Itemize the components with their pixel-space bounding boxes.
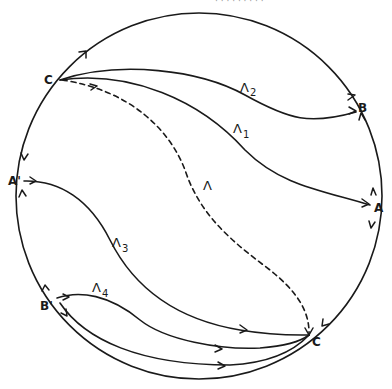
- svg-text:3: 3: [122, 243, 128, 254]
- curve-lambda2: [60, 69, 356, 119]
- arrow-circle-below-Aprime: [19, 190, 26, 197]
- point-label-A-prime: A': [8, 174, 21, 188]
- label-lambda1: Λ 1: [233, 121, 249, 140]
- label-lambda3: Λ 3: [112, 235, 128, 254]
- svg-text:1: 1: [243, 129, 249, 140]
- svg-text:4: 4: [102, 288, 108, 299]
- point-label-B: B: [358, 101, 367, 115]
- point-label-A: A: [374, 201, 384, 215]
- svg-text:Λ: Λ: [92, 280, 101, 295]
- arrow-circle-below-A: [369, 221, 375, 228]
- point-label-C-top: C: [44, 73, 53, 87]
- label-lambda2: Λ 2: [240, 80, 256, 98]
- arrow-lambda3-bottom: [240, 325, 247, 333]
- label-lambda: Λ: [203, 178, 212, 193]
- svg-text:Λ: Λ: [233, 121, 242, 136]
- curve-lambda4: [57, 294, 309, 348]
- curve-lambda1: [60, 78, 370, 205]
- arrow-circle-above-A: [371, 188, 376, 195]
- arrow-circle-lower-right: [322, 319, 329, 326]
- flow-diagram: · · · · · · · · · C B A A' B' C Λ 2 Λ 1: [0, 0, 392, 389]
- point-label-C-bottom: C: [312, 335, 321, 349]
- top-text-fragment: · · · · · · · · ·: [215, 0, 264, 6]
- arrow-circle-below-Bprime: [61, 309, 67, 316]
- svg-text:2: 2: [250, 87, 256, 98]
- svg-text:Λ: Λ: [203, 178, 212, 193]
- svg-text:Λ: Λ: [112, 235, 121, 250]
- arrow-circle-above-Bprime: [42, 285, 49, 291]
- point-label-B-prime: B': [40, 299, 53, 313]
- arrow-circle-left-upper: [21, 153, 28, 160]
- svg-text:Λ: Λ: [240, 80, 249, 95]
